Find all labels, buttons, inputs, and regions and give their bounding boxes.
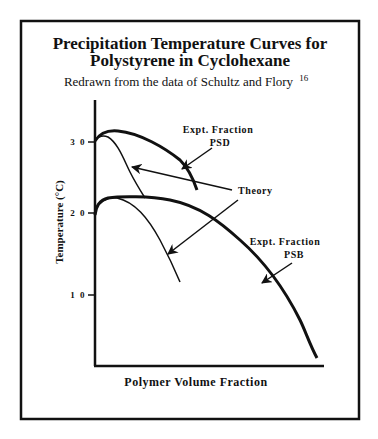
x-axis-label: Polymer Volume Fraction	[124, 375, 267, 389]
annotation-psb-line1: Expt. Fraction	[250, 236, 321, 247]
annotation-psd-line1: Expt. Fraction	[183, 124, 254, 135]
subtitle-text: Redrawn from the data of Schultz and Flo…	[64, 74, 294, 89]
curve-theory-psb	[98, 198, 180, 282]
arrow-theory-psb	[168, 200, 238, 254]
arrow-psd	[182, 148, 212, 169]
curve-expt-psd	[95, 131, 197, 190]
annotation-psb-line2: PSB	[284, 249, 304, 260]
chart-title-line2: Polystyrene in Cyclohexane	[90, 51, 290, 70]
curve-theory-psd	[95, 136, 145, 198]
y-axis-label: Temperature (°C)	[53, 180, 66, 264]
curve-expt-psb	[95, 197, 317, 358]
y-tick-label-10: 1 0	[70, 290, 86, 300]
annotation-theory: Theory	[238, 185, 273, 196]
y-tick-label-30: 3 0	[70, 137, 86, 147]
subtitle-reference: 16	[299, 73, 309, 83]
y-tick-label-20: 2 0	[70, 208, 86, 218]
annotation-psd-line2: PSD	[210, 137, 231, 148]
chart-subtitle: Redrawn from the data of Schultz and Flo…	[64, 72, 309, 89]
arrow-theory-psd	[132, 167, 232, 190]
figure: Precipitation Temperature Curves for Pol…	[0, 0, 378, 439]
